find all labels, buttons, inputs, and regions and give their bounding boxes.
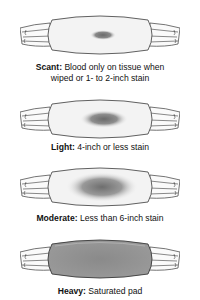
level-description: Saturated pad bbox=[88, 286, 142, 296]
level-description: Less than 6-inch stain bbox=[80, 213, 164, 223]
pad-moderate-panel: Moderate: Less than 6-inch stain bbox=[0, 156, 200, 226]
stain-small bbox=[80, 110, 128, 128]
pad-light-panel: Light: 4-inch or less stain bbox=[0, 86, 200, 156]
level-label: Scant: bbox=[36, 62, 62, 72]
pad-moderate-illustration bbox=[20, 162, 180, 212]
level-label: Heavy: bbox=[58, 286, 86, 296]
pad-scant-panel: Scant: Blood only on tissue when wiped o… bbox=[0, 4, 200, 74]
stain-medium bbox=[66, 172, 138, 202]
level-description: Blood only on tissue when bbox=[64, 62, 164, 72]
level-label: Light: bbox=[51, 142, 75, 152]
caption-scant: Scant: Blood only on tissue when wiped o… bbox=[0, 62, 200, 83]
stain-tiny bbox=[90, 30, 116, 40]
pad-heavy-panel: Heavy: Saturated pad bbox=[0, 228, 200, 300]
level-description: 4-inch or less stain bbox=[77, 142, 149, 152]
level-label: Moderate: bbox=[36, 213, 77, 223]
level-description-line2: wiped or 1- to 2-inch stain bbox=[51, 73, 149, 83]
caption-light: Light: 4-inch or less stain bbox=[0, 142, 200, 153]
caption-moderate: Moderate: Less than 6-inch stain bbox=[0, 213, 200, 224]
caption-heavy: Heavy: Saturated pad bbox=[0, 286, 200, 297]
pad-light-illustration bbox=[20, 94, 180, 144]
pad-heavy-illustration bbox=[20, 234, 180, 284]
pad-scant-illustration bbox=[20, 10, 180, 60]
